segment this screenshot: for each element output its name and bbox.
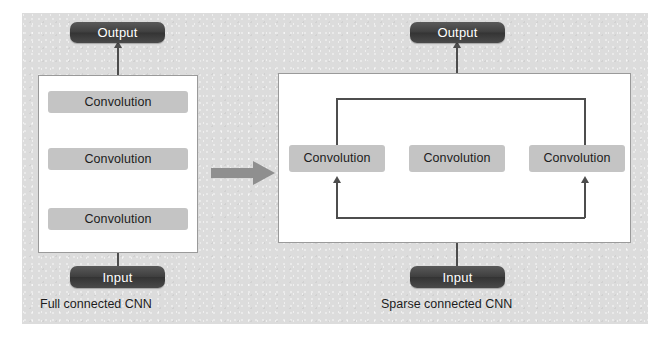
- conv-layer-left-right-panel[interactable]: Convolution: [289, 145, 385, 172]
- input-node-left[interactable]: Input: [70, 266, 165, 288]
- bus-top-right-riser: [584, 98, 586, 146]
- output-node-left[interactable]: Output: [70, 22, 165, 43]
- bus-top: [336, 98, 585, 100]
- conv-layer-bottom-left[interactable]: Convolution: [48, 208, 188, 230]
- bus-bottom-left-riser: [336, 182, 338, 218]
- figure-canvas: Convolution Convolution Convolution Outp…: [0, 0, 668, 341]
- bus-bottom: [336, 217, 585, 219]
- conv-layer-center-right-panel[interactable]: Convolution: [409, 145, 505, 172]
- conv-layer-middle-left[interactable]: Convolution: [48, 148, 188, 170]
- caption-full-connected: Full connected CNN: [40, 298, 152, 311]
- right-block-arrow-icon: [211, 160, 275, 186]
- arrowhead-conv-left: [333, 176, 341, 183]
- input-node-right[interactable]: Input: [410, 266, 505, 288]
- conv-layer-top-left[interactable]: Convolution: [48, 91, 188, 113]
- conv-layer-right-right-panel[interactable]: Convolution: [529, 145, 625, 172]
- output-node-right[interactable]: Output: [410, 22, 505, 43]
- arrowhead-conv-right: [581, 176, 589, 183]
- bus-top-left-riser: [336, 98, 338, 146]
- bus-bottom-right-riser: [584, 182, 586, 218]
- caption-sparse-connected: Sparse connected CNN: [381, 298, 512, 311]
